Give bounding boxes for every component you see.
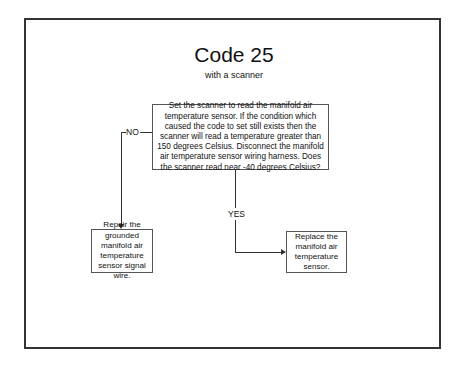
diagram-subtitle: with a scanner: [0, 70, 468, 80]
diagram-frame: [24, 18, 441, 349]
no-label: NO: [126, 127, 139, 137]
yes-connector-horizontal: [235, 252, 281, 253]
yes-connector-vertical-bottom: [235, 220, 236, 252]
decision-text: Set the scanner to read the manifold air…: [156, 101, 325, 172]
no-connector-horizontal-right: [140, 132, 152, 133]
no-connector-vertical: [121, 132, 122, 224]
diagram-title: Code 25: [0, 43, 468, 67]
repair-action-text: Repair the grounded manifold air tempera…: [95, 220, 149, 281]
yes-label: YES: [228, 209, 245, 219]
yes-connector-vertical-top: [235, 170, 236, 208]
replace-action-box: Replace the manifold air temperature sen…: [286, 231, 347, 273]
repair-action-box: Repair the grounded manifold air tempera…: [91, 229, 153, 273]
replace-action-text: Replace the manifold air temperature sen…: [290, 232, 343, 273]
decision-box: Set the scanner to read the manifold air…: [152, 104, 329, 170]
